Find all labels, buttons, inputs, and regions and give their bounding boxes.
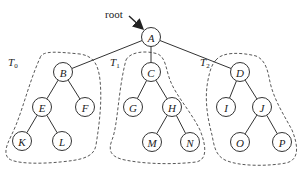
nodes-group: ABCDEFGHIJKLMNOP	[13, 28, 292, 152]
node-label: C	[147, 67, 155, 79]
tree-node-h: H	[163, 98, 182, 117]
tree-diagram: ABCDEFGHIJKLMNOP T0T1T2 root	[0, 0, 304, 182]
node-label: F	[81, 102, 89, 114]
node-label: D	[235, 67, 244, 79]
edge-e-l	[47, 115, 57, 133]
edge-e-k	[27, 115, 37, 133]
subtree-label-t1: T1	[110, 56, 120, 70]
edge-b-f	[68, 80, 80, 99]
tree-node-g: G	[124, 98, 143, 117]
edge-h-m	[157, 115, 168, 134]
node-label: G	[129, 102, 137, 114]
node-label: E	[38, 102, 46, 114]
tree-node-k: K	[13, 132, 32, 151]
node-label: O	[236, 137, 244, 149]
tree-node-j: J	[253, 98, 272, 117]
root-label: root	[105, 8, 123, 20]
tree-node-n: N	[181, 133, 200, 152]
node-label: A	[147, 32, 155, 44]
tree-node-i: I	[217, 98, 236, 117]
edge-a-d	[160, 40, 231, 68]
tree-node-l: L	[53, 132, 72, 151]
tree-node-e: E	[33, 98, 52, 117]
tree-node-p: P	[273, 133, 292, 152]
node-label: P	[278, 137, 286, 149]
tree-node-d: D	[231, 63, 250, 82]
subtree-label-t0: T0	[8, 56, 18, 70]
node-label: B	[60, 67, 67, 79]
tree-node-f: F	[76, 98, 95, 117]
subtree-label-t2: T2	[200, 56, 210, 70]
root-arrow-icon	[129, 16, 142, 28]
node-label: N	[185, 137, 194, 149]
edges-group	[27, 40, 277, 133]
edge-c-h	[156, 80, 167, 99]
node-label: M	[146, 137, 157, 149]
edge-d-i	[230, 81, 237, 98]
edge-b-e	[47, 80, 58, 99]
tree-node-o: O	[231, 133, 250, 152]
tree-node-m: M	[143, 133, 162, 152]
edge-j-o	[245, 115, 257, 134]
node-label: K	[17, 136, 26, 148]
edge-c-g	[137, 80, 146, 98]
subtree-labels-group: T0T1T2	[8, 56, 210, 70]
node-label: H	[167, 102, 177, 114]
edge-h-n	[176, 115, 185, 133]
tree-node-c: C	[142, 63, 161, 82]
edge-j-p	[267, 115, 278, 134]
node-label: L	[58, 136, 65, 148]
tree-node-a: A	[142, 28, 161, 47]
tree-node-b: B	[54, 63, 73, 82]
edge-d-j	[245, 80, 257, 99]
